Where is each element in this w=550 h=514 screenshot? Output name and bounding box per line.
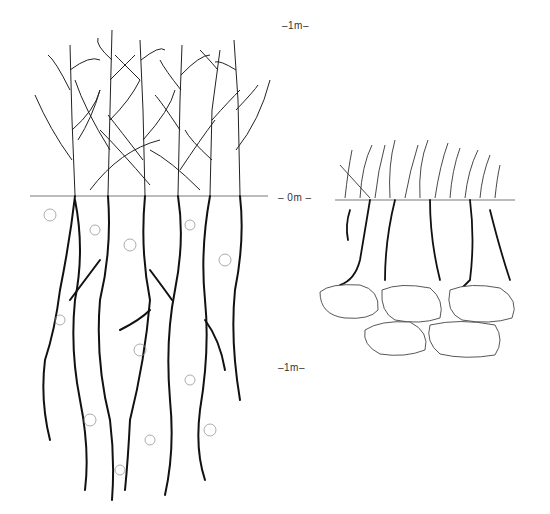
shallow-roots — [340, 200, 510, 300]
scale-label-ground: – 0m – — [278, 192, 312, 203]
stones — [320, 285, 514, 358]
root-depth-illustration — [0, 0, 550, 514]
scale-label-bottom: –1m– — [278, 362, 305, 373]
tall-plants — [35, 30, 270, 195]
short-grass — [340, 140, 500, 198]
scale-label-top: –1m– — [282, 20, 309, 31]
deep-roots — [43, 196, 241, 500]
